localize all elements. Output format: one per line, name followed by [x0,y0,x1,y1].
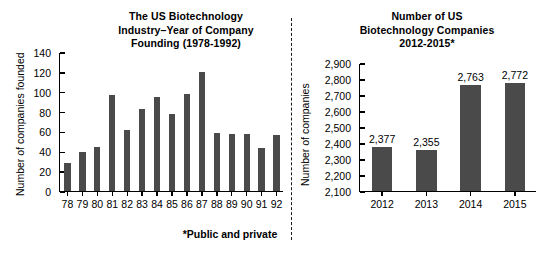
y-axis-tick-label: 100 [33,86,51,100]
y-axis-label-founding-year: Number of companies founded [14,52,26,196]
x-axis-tick-label: 82 [121,198,133,210]
x-axis-tick-label: 2012 [370,198,393,210]
x-axis-tick-label: 79 [77,198,89,210]
y-axis-tick-mark [360,127,365,128]
y-axis-tick-mark [60,52,65,53]
bar [199,72,205,191]
y-axis-tick-label: 2,200 [325,169,351,183]
x-axis-tick-mark [156,191,157,196]
y-axis-tick-label: 2,500 [325,121,351,135]
x-axis-tick-mark [201,191,202,196]
bar [109,95,115,191]
x-axis-tick-mark [426,191,427,196]
y-axis-tick-label: 2,800 [325,73,351,87]
y-axis-tick-label: 2,700 [325,89,351,103]
bar [139,109,145,191]
x-axis-tick-mark [141,191,142,196]
bar [416,150,436,191]
x-axis-tick-mark [171,191,172,196]
chart-title-founding-year: The US Biotechnology Industry–Year of Co… [88,10,284,51]
x-axis-tick-label: 2014 [459,198,482,210]
x-axis-tick-mark [231,191,232,196]
x-axis-tick-label: 84 [151,198,163,210]
y-axis-tick-mark [360,143,365,144]
y-axis-tick-label: 2,600 [325,105,351,119]
x-axis-tick-label: 81 [106,198,118,210]
bar-value-label: 2,377 [369,133,395,145]
bar-value-label: 2,355 [413,136,439,148]
y-axis-tick-mark [360,63,365,64]
x-axis-tick-mark [261,191,262,196]
y-axis-tick-mark [60,132,65,133]
plot-area-company-count: 2,1002,2002,3002,4002,5002,6002,7002,800… [359,64,536,192]
x-axis-tick-label: 78 [62,198,74,210]
y-axis-tick-label: 140 [33,46,51,60]
y-axis-tick-label: 60 [39,125,51,139]
x-axis-tick-label: 2015 [503,198,526,210]
chart-title-line: The US Biotechnology [88,10,284,24]
bar [273,135,279,191]
plot-area-founding-year: 0204060801001201407879808182838485868788… [59,53,283,192]
y-axis-tick-mark [60,112,65,113]
bar-value-label: 2,772 [502,69,528,81]
x-axis-tick-label: 2013 [415,198,438,210]
y-axis-tick-mark [360,111,365,112]
y-axis-tick-mark [360,175,365,176]
figure-root: The US Biotechnology Industry–Year of Co… [0,0,552,256]
bar [64,163,70,191]
bar [229,134,235,191]
x-axis-tick-label: 88 [211,198,223,210]
panel-divider-dashed-line [291,18,292,240]
y-axis-tick-label: 2,400 [325,137,351,151]
bar [244,134,250,191]
bar [258,148,264,191]
bar [94,147,100,191]
y-axis-tick-label: 40 [39,145,51,159]
x-axis-tick-label: 86 [181,198,193,210]
x-axis-tick-mark [216,191,217,196]
x-axis-tick-label: 80 [91,198,103,210]
x-axis-tick-label: 91 [256,198,268,210]
bar [372,147,392,191]
y-axis-tick-mark [60,152,65,153]
bar [169,114,175,191]
y-axis-tick-mark [360,191,365,192]
x-axis-tick-mark [470,191,471,196]
y-axis-tick-mark [360,79,365,80]
x-axis-tick-mark [276,191,277,196]
x-axis-tick-mark [514,191,515,196]
bar [184,94,190,191]
x-axis-tick-mark [127,191,128,196]
y-axis-tick-label: 120 [33,66,51,80]
bar [460,85,480,191]
x-axis-tick-mark [82,191,83,196]
bar-value-label: 2,763 [457,71,483,83]
y-axis-tick-label: 2,900 [325,57,351,71]
y-axis-tick-mark [60,72,65,73]
chart-title-company-count: Number of US Biotechnology Companies 201… [316,10,538,51]
x-axis-tick-mark [246,191,247,196]
chart-title-line: Number of US [316,10,538,24]
x-axis-tick-label: 87 [196,198,208,210]
chart-title-line: 2012-2015* [316,37,538,51]
y-axis-tick-label: 20 [39,165,51,179]
y-axis-tick-label: 0 [45,185,51,199]
y-axis-tick-label: 80 [39,106,51,120]
footnote-text: *Public and private [150,228,310,240]
bar [214,133,220,191]
x-axis-tick-mark [186,191,187,196]
y-axis-tick-mark [60,191,65,192]
chart-title-line: Founding (1978-1992) [88,37,284,51]
y-axis-tick-mark [360,159,365,160]
y-axis-tick-mark [360,95,365,96]
x-axis-tick-mark [67,191,68,196]
x-axis-tick-label: 90 [241,198,253,210]
x-axis-tick-label: 83 [136,198,148,210]
x-axis-tick-mark [112,191,113,196]
x-axis-tick-mark [381,191,382,196]
x-axis-tick-label: 89 [226,198,238,210]
y-axis-tick-label: 2,300 [325,153,351,167]
chart-title-line: Biotechnology Companies [316,24,538,38]
bar [79,152,85,191]
chart-title-line: Industry–Year of Company [88,24,284,38]
